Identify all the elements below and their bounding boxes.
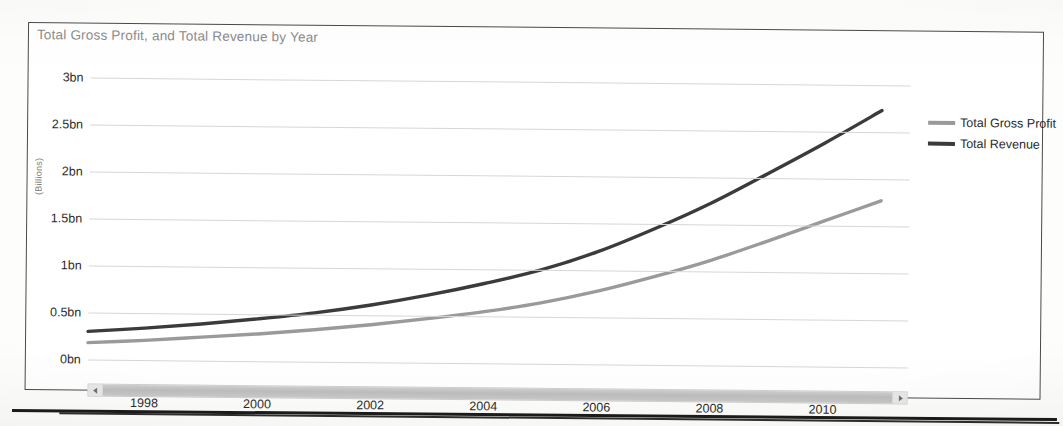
y-axis-tick-label: 1bn [61,258,82,272]
plot-area: 0bn0.5bn1bn1.5bn2bn2.5bn3bn [88,78,911,368]
legend-color-swatch [928,142,955,146]
horizontal-scrollbar[interactable] [87,384,907,405]
chart-title: Total Gross Profit, and Total Revenue by… [37,27,318,45]
scroll-right-arrow-icon[interactable] [893,392,906,403]
legend-item[interactable]: Total Gross Profit [928,116,1063,131]
x-axis-tick-label: 2008 [695,401,723,415]
y-axis-tick-label: 2.5bn [52,117,83,131]
series-line [88,103,882,339]
y-axis-tick-label: 0.5bn [50,305,81,319]
y-axis-title: (Billions) [33,158,43,196]
x-axis-tick-label: 1998 [130,396,158,410]
x-axis-tick-label: 2006 [582,400,610,414]
x-axis-tick-label: 2002 [356,398,384,412]
chart-legend: Total Gross ProfitTotal Revenue [928,116,1063,159]
legend-item[interactable]: Total Revenue [928,137,1063,152]
y-axis-tick-label: 2bn [62,164,83,178]
scrollbar-thumb[interactable] [101,385,893,404]
legend-item-label: Total Revenue [960,137,1040,152]
legend-color-swatch [928,121,955,125]
legend-item-label: Total Gross Profit [960,116,1056,131]
x-axis-tick-label: 2004 [469,399,497,413]
chart-container: Total Gross Profit, and Total Revenue by… [25,22,1044,400]
y-axis-tick-label: 0bn [60,352,81,366]
y-axis-tick-label: 1.5bn [51,211,82,225]
x-axis-tick-label: 2000 [243,397,271,411]
x-axis-tick-label: 2010 [809,402,837,416]
y-axis-tick-label: 3bn [63,70,84,84]
scroll-left-arrow-icon[interactable] [88,385,101,396]
